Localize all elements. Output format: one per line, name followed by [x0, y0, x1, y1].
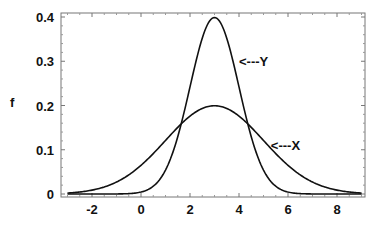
y-tick-label: 0.1 [36, 143, 54, 158]
x-tick-label: 2 [186, 202, 193, 217]
y-tick-label: 0.4 [36, 10, 55, 25]
y-axis: 00.10.20.30.4 [36, 10, 365, 202]
chart: -202468 00.10.20.30.4 f <---Y<---X [0, 0, 384, 228]
x-axis: -202468 [68, 13, 362, 217]
annotations: <---Y<---X [239, 54, 300, 153]
curve-annotation: <---X [271, 138, 301, 153]
x-tick-label: 6 [284, 202, 291, 217]
y-tick-label: 0.3 [36, 54, 54, 69]
y-axis-label: f [10, 95, 15, 110]
y-tick-label: 0 [47, 187, 54, 202]
series-x-curve [68, 106, 362, 193]
x-tick-label: 0 [137, 202, 144, 217]
curve-annotation: <---Y [239, 54, 269, 69]
x-tick-label: 8 [333, 202, 340, 217]
x-tick-label: -2 [86, 202, 98, 217]
y-tick-label: 0.2 [36, 99, 54, 114]
x-tick-label: 4 [235, 202, 243, 217]
